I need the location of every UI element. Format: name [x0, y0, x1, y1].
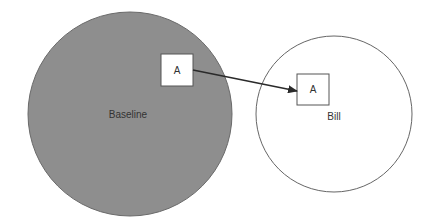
bill-label: Bill — [327, 111, 340, 122]
diagram-canvas: Baseline Bill A A — [0, 0, 431, 224]
box-a-bill: A — [297, 74, 329, 105]
box-a-bill-label: A — [310, 84, 317, 95]
baseline-label: Baseline — [109, 109, 148, 120]
box-a-baseline: A — [161, 54, 193, 86]
box-a-baseline-label: A — [174, 65, 181, 76]
